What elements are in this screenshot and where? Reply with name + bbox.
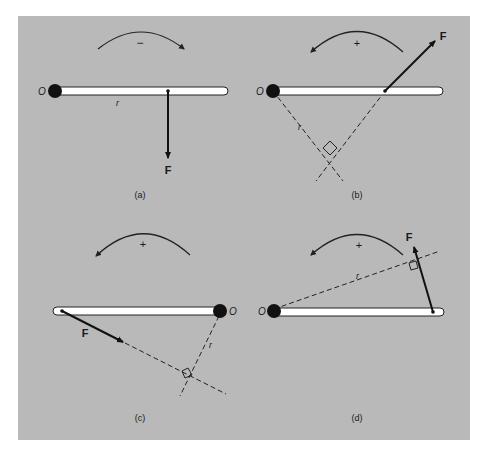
force-vector bbox=[62, 311, 123, 342]
sign-label: + bbox=[140, 238, 146, 250]
pivot-point bbox=[266, 84, 280, 98]
lever-bar bbox=[55, 87, 228, 95]
radius-label: r bbox=[116, 98, 120, 108]
line-of-action bbox=[316, 91, 385, 181]
origin-label: O bbox=[38, 86, 46, 97]
origin-label: O bbox=[258, 306, 266, 317]
caption: (c) bbox=[135, 413, 146, 423]
sign-label: + bbox=[354, 37, 360, 49]
panel-c: + O r F (c) bbox=[53, 234, 237, 423]
sign-label: − bbox=[136, 36, 143, 50]
force-label: F bbox=[165, 164, 172, 176]
pivot-point bbox=[213, 304, 227, 318]
line-of-action bbox=[125, 343, 226, 394]
radius-label: r bbox=[298, 122, 302, 132]
panel-a: − O r F (a) bbox=[38, 32, 228, 200]
force-vector bbox=[385, 41, 435, 91]
panel-b: + O r F (b) bbox=[256, 30, 447, 200]
lever-bar bbox=[274, 308, 444, 316]
right-angle-marker bbox=[323, 141, 337, 155]
caption: (d) bbox=[352, 413, 363, 423]
moment-arm-line bbox=[273, 91, 343, 181]
radius-label: r bbox=[209, 340, 213, 350]
force-label: F bbox=[440, 30, 447, 42]
torque-diagram: − O r F (a) + O r F (b) + O r bbox=[0, 0, 487, 458]
origin-label: O bbox=[256, 86, 264, 97]
force-vector bbox=[414, 247, 433, 312]
right-angle-marker bbox=[409, 261, 418, 270]
force-label: F bbox=[82, 327, 89, 339]
caption: (b) bbox=[352, 190, 363, 200]
sign-label: + bbox=[356, 239, 362, 251]
pivot-point bbox=[48, 84, 62, 98]
lever-bar bbox=[53, 307, 221, 315]
moment-arm-line bbox=[180, 316, 219, 396]
pivot-point bbox=[267, 304, 281, 318]
origin-label: O bbox=[229, 306, 237, 317]
lever-bar bbox=[273, 87, 443, 95]
force-label: F bbox=[406, 231, 413, 243]
caption: (a) bbox=[135, 190, 146, 200]
panel-d: + O r F (d) bbox=[258, 231, 444, 423]
